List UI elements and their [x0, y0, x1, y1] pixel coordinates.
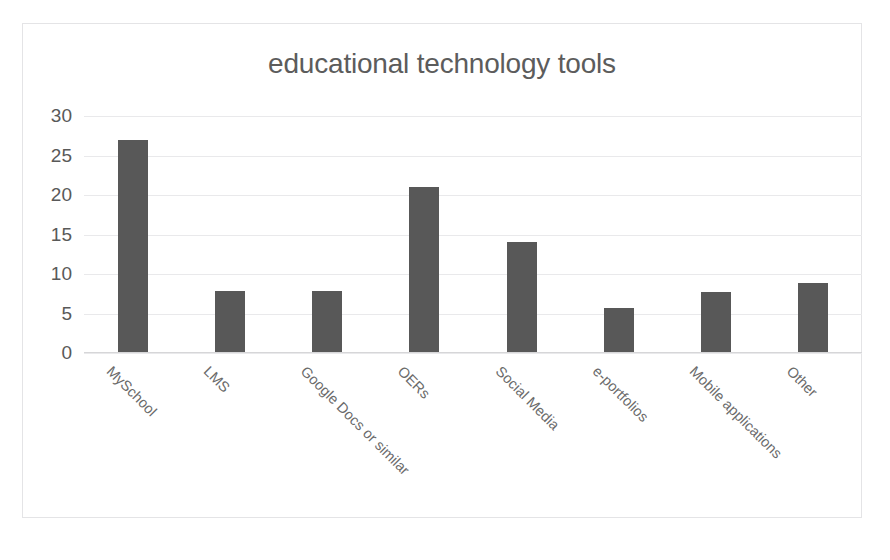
plot-area: 051015202530 MySchoolLMSGoogle Docs or s…	[84, 116, 862, 353]
y-axis-tick-label: 20	[51, 184, 72, 206]
x-axis-category-label: Other	[784, 363, 821, 400]
bar[interactable]	[604, 308, 634, 353]
chart-title: educational technology tools	[23, 48, 861, 80]
x-axis-category-label: LMS	[201, 363, 233, 395]
x-axis-category-label: e-portfolios	[590, 363, 652, 425]
x-axis-baseline	[84, 352, 862, 353]
x-axis-category-label: MySchool	[103, 363, 159, 419]
y-axis-tick-label: 30	[51, 105, 72, 127]
x-axis-category-label: Google Docs or similar	[298, 363, 413, 478]
gridline	[84, 195, 862, 196]
gridline	[84, 274, 862, 275]
gridline	[84, 116, 862, 117]
bar[interactable]	[312, 291, 342, 353]
bar[interactable]	[701, 292, 731, 353]
y-axis-tick-label: 10	[51, 263, 72, 285]
y-axis-tick-label: 5	[61, 303, 72, 325]
bar[interactable]	[215, 291, 245, 353]
x-axis-category-label: Mobile applications	[687, 363, 786, 462]
x-axis-category-label: Social Media	[492, 363, 562, 433]
chart-frame: educational technology tools 05101520253…	[22, 23, 862, 518]
y-axis-tick-label: 25	[51, 145, 72, 167]
gridline	[84, 235, 862, 236]
gridline	[84, 353, 862, 354]
bar[interactable]	[409, 187, 439, 353]
x-axis-category-label: OERs	[395, 363, 434, 402]
gridline	[84, 156, 862, 157]
bar[interactable]	[507, 242, 537, 353]
y-axis-tick-label: 0	[61, 342, 72, 364]
gridline	[84, 314, 862, 315]
bar[interactable]	[118, 140, 148, 353]
y-axis-tick-label: 15	[51, 224, 72, 246]
bar[interactable]	[798, 283, 828, 353]
